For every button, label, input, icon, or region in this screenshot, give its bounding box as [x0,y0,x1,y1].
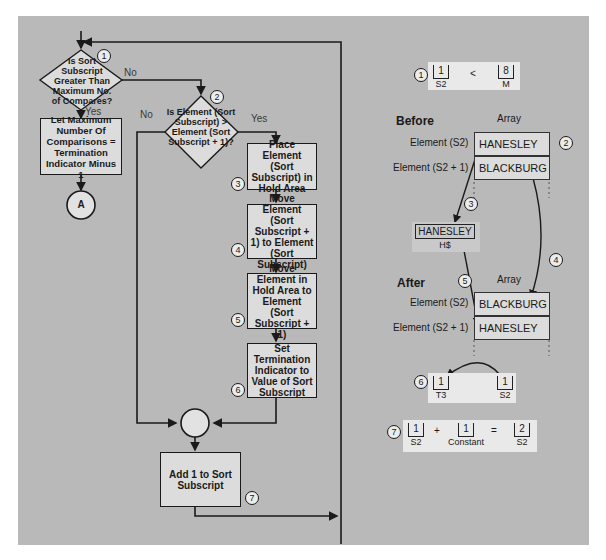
before-row1-label: Element (S2) [410,137,468,148]
assign-source-value: 1 [497,376,513,390]
assign-source-label: S2 [495,390,515,400]
decision2-yes-label: Yes [251,113,267,124]
hold-label: H$ [430,240,460,250]
before-row2-label: Element (S2 + 1) [393,162,468,173]
add-equals: = [491,425,497,436]
before-row1-value: HANESLEY [474,132,550,156]
illus-step-3-marker: 3 [464,197,478,211]
before-title: Before [396,114,434,128]
after-row1-label: Element (S2) [410,297,468,308]
step-7-marker: 7 [245,491,259,505]
step3-box: Place Element (Sort Subscript) in Hold A… [247,143,317,190]
compare-left-value: 1 [433,65,449,79]
illus-step-6-marker: 6 [414,375,428,389]
assign-target-label: T3 [431,390,451,400]
compare-operator: < [470,68,476,79]
step-1-marker: 1 [97,49,111,63]
after-row2-label: Element (S2 + 1) [393,322,468,333]
illus-step-7-marker: 7 [387,425,401,439]
step7-box: Add 1 to Sort Subscript [160,452,241,507]
add-b-label: Constant [446,437,486,447]
step-4-marker: 4 [231,243,245,257]
compare-left-label: S2 [431,79,451,89]
decision2-text: Is Element (Sort Subscript) > Element (S… [163,107,239,147]
after-array-label: Array [497,274,521,285]
decision1-no-label: No [124,67,137,78]
step5-box: Move Element in Hold Area to Element (So… [247,273,317,329]
before-array-label: Array [497,113,521,124]
before-row2-value: BLACKBURG [474,156,550,180]
connector-a: A [71,199,91,210]
compare-right-label: M [496,79,516,89]
decision1-text: Is Sort Subscript Greater Than Maximum N… [48,56,116,106]
step-6-marker: 6 [231,383,245,397]
step-3-marker: 3 [231,177,245,191]
assign-target-value: 1 [433,376,449,390]
step4-box: Move Element (Sort Subscript + 1) to Ele… [247,204,317,259]
illus-step-1-marker: 1 [414,68,428,82]
illus-step-2-marker: 2 [559,136,573,150]
add-a-label: S2 [406,437,426,447]
add-plus: + [434,425,440,436]
step-5-marker: 5 [231,313,245,327]
illus-step-4-marker: 4 [549,253,563,267]
step6-box: Set Termination Indicator to Value of So… [247,343,317,398]
illus-step-5-marker: 5 [458,274,472,288]
compare-right-value: 8 [498,65,514,79]
decision2-no-label: No [140,109,153,120]
after-row2-value: HANESLEY [474,316,550,340]
add-a-value: 1 [408,423,424,437]
set-max-comparisons-box: Let Maximum Number Of Comparisons = Term… [40,118,122,175]
hold-value: HANESLEY [415,224,475,239]
after-row1-value: BLACKBURG [474,292,550,316]
step-2-marker: 2 [210,90,224,104]
add-b-value: 1 [458,423,474,437]
add-result-label: S2 [512,437,532,447]
after-title: After [397,276,425,290]
add-result-value: 2 [514,423,530,437]
